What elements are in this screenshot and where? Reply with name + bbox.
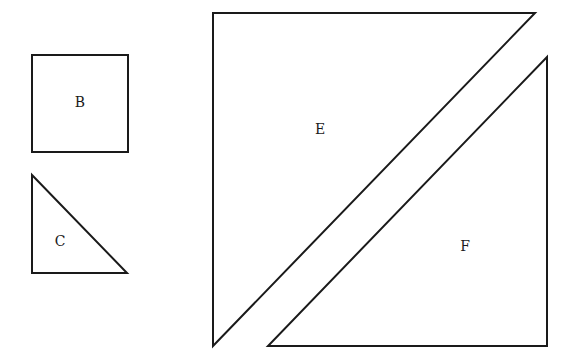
diagram-canvas: B C E F (0, 0, 583, 361)
shape-c: C (32, 175, 127, 273)
label-f: F (460, 238, 470, 254)
label-b: B (75, 94, 85, 110)
label-c: C (55, 233, 66, 249)
label-e: E (315, 121, 325, 137)
shape-b: B (32, 55, 128, 152)
triangle-c (32, 175, 127, 273)
